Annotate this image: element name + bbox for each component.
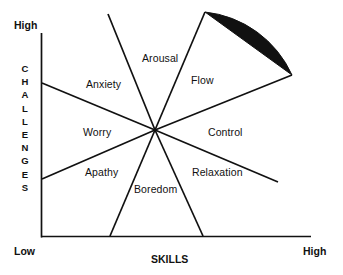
diagram-canvas	[0, 0, 343, 275]
challenges-letter: N	[22, 141, 29, 154]
challenges-letter: G	[21, 154, 28, 167]
sector-label-relaxation: Relaxation	[192, 167, 243, 178]
sector-label-worry: Worry	[83, 127, 111, 138]
y-axis-low-label: Low	[14, 246, 35, 257]
challenges-letter: H	[22, 75, 29, 88]
sector-label-anxiety: Anxiety	[86, 79, 121, 90]
challenges-letter: S	[22, 181, 28, 194]
challenges-letter: A	[22, 88, 29, 101]
challenges-letter: E	[22, 168, 28, 181]
sector-label-boredom: Boredom	[134, 184, 177, 195]
x-axis-title-skills: SKILLS	[151, 254, 188, 265]
challenges-letter: L	[22, 115, 28, 128]
challenges-letter: E	[22, 128, 28, 141]
flow-model-diagram: C H A L L E N G E S High Low High SKILLS…	[0, 0, 343, 275]
sector-label-control: Control	[208, 127, 243, 138]
challenges-letter: C	[22, 62, 29, 75]
sector-label-flow: Flow	[191, 75, 214, 86]
sector-label-arousal: Arousal	[142, 53, 178, 64]
flow-zone-wedge	[205, 12, 292, 75]
sector-label-apathy: Apathy	[85, 167, 118, 178]
x-axis-high-label: High	[303, 246, 326, 257]
y-axis-high-label: High	[14, 20, 37, 31]
challenges-letter: L	[22, 102, 28, 115]
y-axis-title-challenges: C H A L L E N G E S	[18, 62, 32, 194]
